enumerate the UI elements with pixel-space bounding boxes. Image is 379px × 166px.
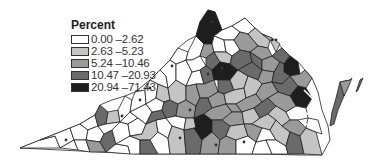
legend-item: 0.00 –2.62 (71, 33, 156, 45)
legend-item: 10.47 –20.93 (71, 69, 156, 81)
legend-label: 2.63 –5.23 (91, 45, 143, 57)
legend-item: 2.63 –5.23 (71, 45, 156, 57)
legend-label: 0.00 –2.62 (91, 33, 143, 45)
legend-item: 5.24 –10.46 (71, 57, 156, 69)
legend: Percent 0.00 –2.62 2.63 –5.23 5.24 –10.4… (71, 19, 156, 93)
legend-title: Percent (71, 19, 156, 32)
legend-swatch (71, 71, 89, 80)
legend-swatch (71, 83, 89, 92)
legend-label: 5.24 –10.46 (91, 57, 150, 69)
county (168, 126, 186, 154)
legend-swatch (71, 47, 89, 56)
legend-swatch (71, 35, 89, 44)
legend-item: 20.94 –71.43 (71, 81, 156, 93)
legend-swatch (71, 59, 89, 68)
island (356, 78, 363, 92)
legend-label: 10.47 –20.93 (91, 69, 156, 81)
legend-label: 20.94 –71.43 (91, 81, 156, 93)
county (20, 136, 60, 148)
virginia-choropleth-map (0, 0, 379, 166)
